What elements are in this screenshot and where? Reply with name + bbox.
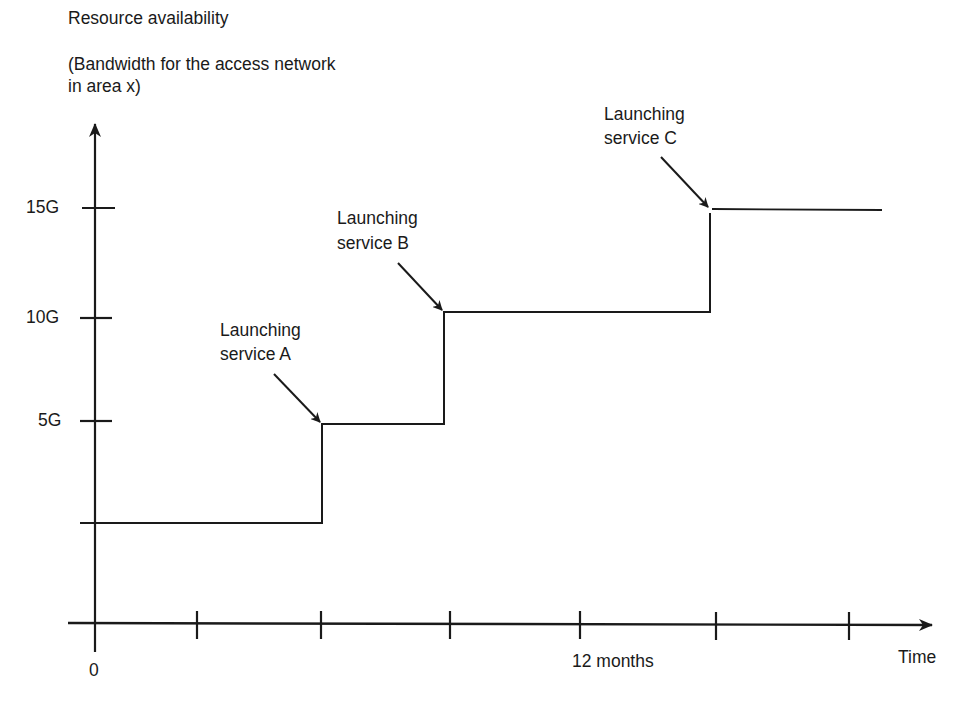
y-tick-label-5g: 5G bbox=[38, 410, 61, 431]
bandwidth-level-15g bbox=[712, 209, 882, 210]
y-axis-title: Resource availability bbox=[68, 8, 229, 29]
arrow-service-a-icon bbox=[274, 374, 320, 422]
y-axis-subtitle-2: in area x) bbox=[68, 76, 141, 97]
annotation-service-c-line2: service C bbox=[604, 128, 677, 149]
annotation-service-b-line2: service B bbox=[337, 233, 409, 254]
y-tick-label-15g: 15G bbox=[26, 197, 59, 218]
x-axis-title: Time bbox=[898, 647, 936, 668]
x-tick-label-0: 0 bbox=[89, 660, 99, 681]
annotation-service-c-line1: Launching bbox=[604, 104, 685, 125]
y-axis-subtitle: (Bandwidth for the access network bbox=[68, 54, 336, 75]
annotation-service-a-line2: service A bbox=[220, 344, 291, 365]
arrow-service-c-icon bbox=[661, 157, 708, 207]
y-ticks bbox=[80, 208, 115, 421]
annotation-service-b-line1: Launching bbox=[337, 208, 418, 229]
arrow-service-b-icon bbox=[398, 263, 442, 310]
x-tick-label-12-months: 12 months bbox=[572, 651, 654, 672]
annotation-service-a-line1: Launching bbox=[220, 320, 301, 341]
y-tick-label-10g: 10G bbox=[26, 307, 59, 328]
bandwidth-step-line bbox=[80, 213, 710, 523]
chart-canvas bbox=[0, 0, 967, 704]
